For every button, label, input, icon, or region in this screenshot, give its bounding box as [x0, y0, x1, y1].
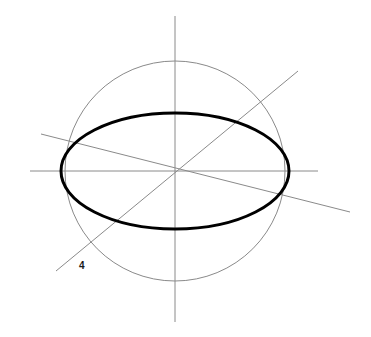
shallow-diagonal-line: [41, 134, 350, 212]
geometry-svg: [0, 0, 371, 337]
diagram-canvas: 4: [0, 0, 371, 337]
label-4: 4: [79, 261, 85, 271]
